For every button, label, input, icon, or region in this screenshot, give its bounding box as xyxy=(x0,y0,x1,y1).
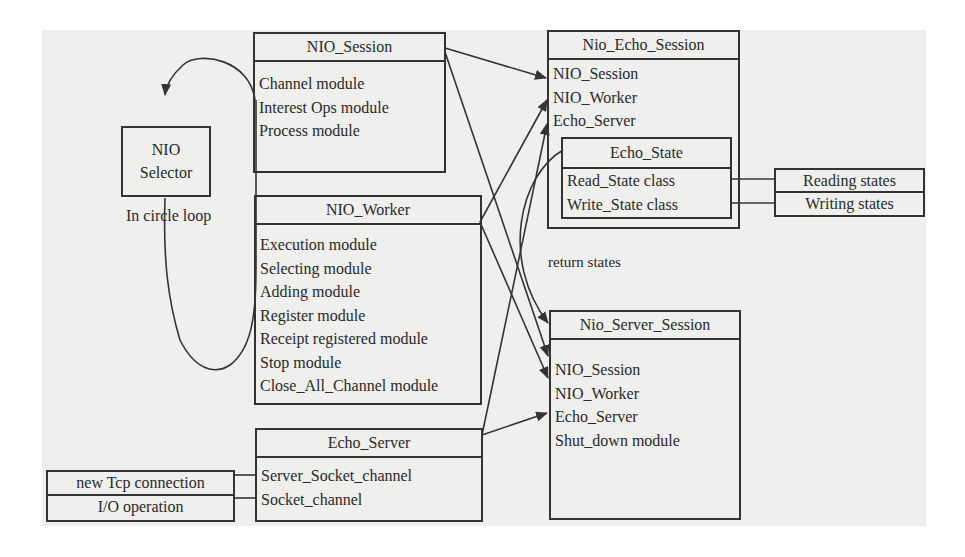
loop-label: In circle loop xyxy=(126,207,211,225)
nio-server-session-item: NIO_Worker xyxy=(555,382,739,406)
nio-echo-session-title: Nio_Echo_Session xyxy=(549,32,738,60)
loop-arrow xyxy=(165,58,255,100)
echo-state-title: Echo_State xyxy=(563,139,730,169)
nio-server-session-item: Shut_down module xyxy=(555,429,739,453)
state-reading: Reading states xyxy=(776,170,923,191)
return-states-label: return states xyxy=(548,254,621,271)
echo-state-box: Echo_State Read_State class Write_State … xyxy=(561,137,732,219)
nio-worker-item: Stop module xyxy=(260,351,480,375)
nio-session-title: NIO_Session xyxy=(255,34,444,62)
echo-server-title: Echo_Server xyxy=(257,430,481,458)
nio-echo-session-item: NIO_Session xyxy=(553,62,738,86)
nio-echo-session-item: NIO_Worker xyxy=(553,86,738,110)
echo-server-item: Server_Socket_channel xyxy=(261,464,481,488)
nio-worker-item: Selecting module xyxy=(260,257,480,281)
echo-state-item: Read_State class xyxy=(567,169,730,193)
nio-worker-item: Execution module xyxy=(260,233,480,257)
nio-session-box: NIO_Session Channel module Interest Ops … xyxy=(253,32,446,173)
nio-selector-title-line1: NIO xyxy=(123,138,209,161)
echo-server-item: Socket_channel xyxy=(261,488,481,512)
nio-session-item: Process module xyxy=(259,119,444,143)
nio-server-session-item: Echo_Server xyxy=(555,405,739,429)
nio-worker-item: Adding module xyxy=(260,280,480,304)
nio-worker-item: Receipt registered module xyxy=(260,327,480,351)
echo-server-box: Echo_Server Server_Socket_channel Socket… xyxy=(255,428,483,522)
nio-session-item: Interest Ops module xyxy=(259,96,444,120)
io-event-new-tcp: new Tcp connection xyxy=(48,472,233,494)
io-event-io-operation: I/O operation xyxy=(48,494,233,518)
nio-worker-item: Register module xyxy=(260,304,480,328)
nio-worker-title: NIO_Worker xyxy=(256,197,480,225)
io-events-table: new Tcp connection I/O operation xyxy=(46,470,235,522)
echo-state-item: Write_State class xyxy=(567,193,730,217)
nio-worker-box: NIO_Worker Execution module Selecting mo… xyxy=(254,195,482,405)
nio-echo-session-item: Echo_Server xyxy=(553,109,738,133)
nio-session-item: Channel module xyxy=(259,72,444,96)
nio-selector-title-line2: Selector xyxy=(123,161,209,184)
nio-selector-box: NIO Selector xyxy=(121,126,211,197)
states-table: Reading states Writing states xyxy=(774,168,925,217)
nio-worker-item: Close_All_Channel module xyxy=(260,374,480,398)
nio-server-session-box: Nio_Server_Session NIO_Session NIO_Worke… xyxy=(549,310,741,520)
nio-server-session-title: Nio_Server_Session xyxy=(551,312,739,340)
state-writing: Writing states xyxy=(776,191,923,214)
nio-server-session-item: NIO_Session xyxy=(555,358,739,382)
